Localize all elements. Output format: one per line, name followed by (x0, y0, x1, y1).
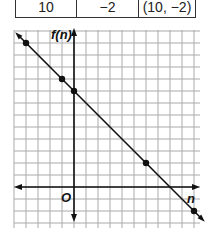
y-axis-label: f(n) (51, 27, 72, 42)
right-arrow-icon (192, 184, 200, 190)
data-point (191, 208, 197, 214)
coordinate-graph: f(n) n O (0, 0, 210, 232)
origin-label: O (61, 190, 71, 205)
left-arrow-icon (14, 184, 22, 190)
down-arrow-icon (71, 214, 77, 222)
y-axis (71, 28, 77, 222)
x-axis-label: n (187, 191, 195, 206)
data-point (71, 88, 77, 94)
data-point (23, 40, 29, 46)
data-point (59, 76, 65, 82)
data-point (143, 160, 149, 166)
